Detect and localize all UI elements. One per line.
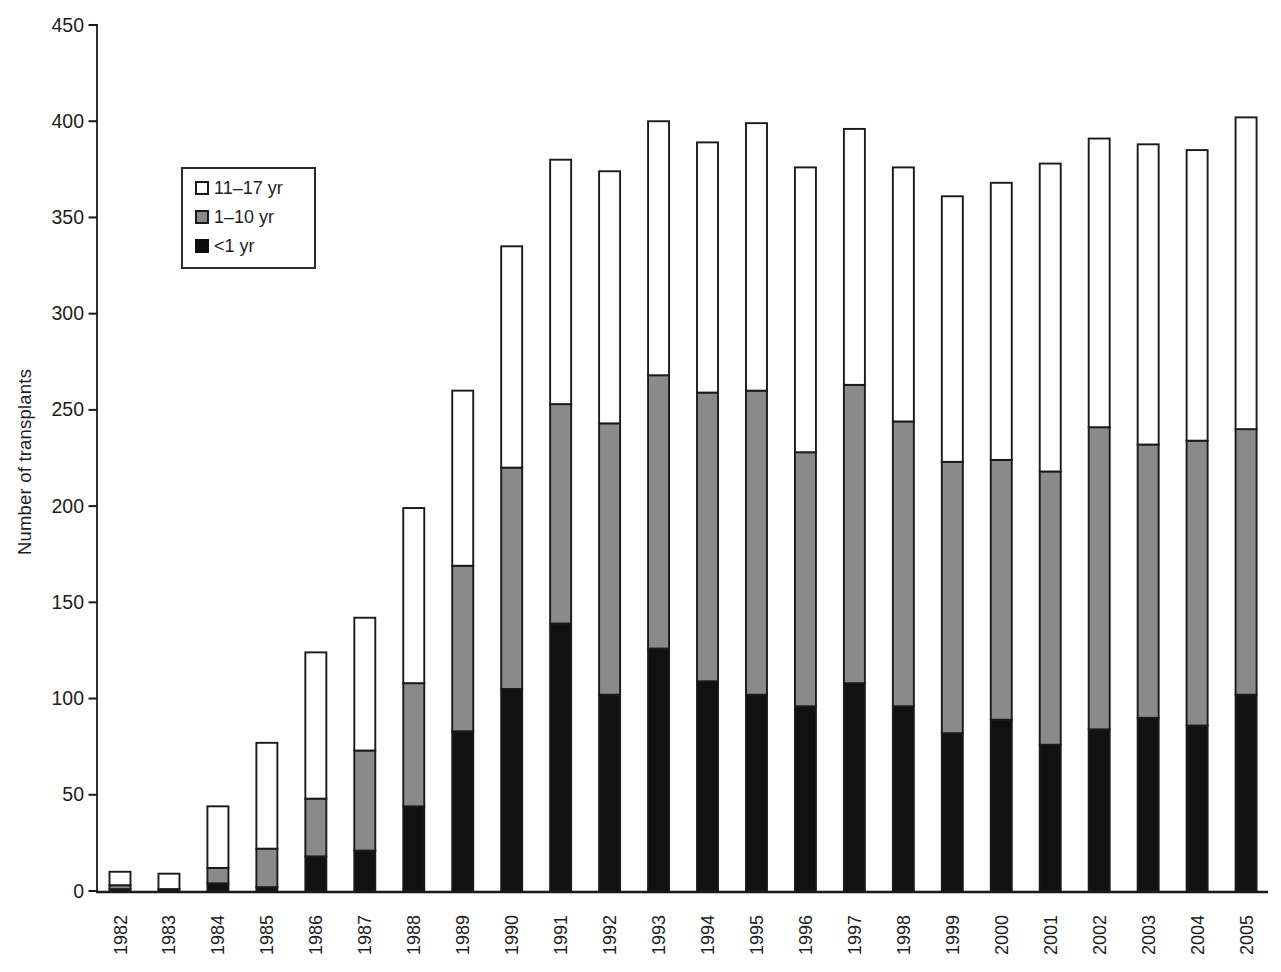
x-tick-label: 1994 xyxy=(698,915,718,955)
x-tick-label: 1990 xyxy=(502,915,522,955)
bar-segment-1991 xyxy=(550,624,571,891)
bar-segment-1992 xyxy=(599,171,620,423)
x-tick-label: 2001 xyxy=(1041,915,1061,955)
bar-segment-1990 xyxy=(501,689,522,891)
legend-item-lt1yr: <1 yr xyxy=(195,237,308,255)
bar-segment-1987 xyxy=(354,751,375,851)
stacked-bar-chart: 0501001502002503003504004501982198319841… xyxy=(0,0,1281,972)
y-tick-label: 100 xyxy=(51,687,84,709)
chart-legend: 11–17 yr 1–10 yr <1 yr xyxy=(181,167,316,269)
gray-square-icon xyxy=(195,210,209,224)
y-tick-label: 150 xyxy=(51,591,84,613)
x-tick-label: 1989 xyxy=(453,915,473,955)
bar-segment-1992 xyxy=(599,423,620,694)
bar-segment-1988 xyxy=(403,683,424,806)
bar-segment-2003 xyxy=(1138,718,1159,891)
bar-segment-1985 xyxy=(256,849,277,887)
x-tick-label: 1983 xyxy=(159,915,179,955)
bar-segment-1993 xyxy=(648,375,669,648)
bar-segment-1996 xyxy=(795,167,816,452)
bar-segment-2003 xyxy=(1138,445,1159,718)
bar-segment-1999 xyxy=(942,196,963,462)
y-tick-label: 200 xyxy=(51,495,84,517)
bar-segment-1984 xyxy=(207,806,228,868)
bar-segment-1993 xyxy=(648,121,669,375)
bar-segment-1996 xyxy=(795,706,816,891)
bar-segment-2002 xyxy=(1089,427,1110,729)
bar-segment-1982 xyxy=(110,872,131,885)
y-axis-title: Number of transplants xyxy=(14,369,35,555)
y-tick-label: 450 xyxy=(51,14,84,36)
x-tick-label: 1988 xyxy=(404,915,424,955)
bar-segment-1994 xyxy=(697,393,718,682)
legend-label: 1–10 yr xyxy=(214,208,274,226)
bar-segment-1986 xyxy=(305,652,326,798)
y-tick-label: 0 xyxy=(73,880,84,902)
bar-segment-2001 xyxy=(1040,471,1061,744)
bar-segment-1988 xyxy=(403,806,424,891)
legend-item-1-10yr: 1–10 yr xyxy=(195,208,308,226)
x-tick-label: 1995 xyxy=(747,915,767,955)
bar-segment-1991 xyxy=(550,160,571,404)
x-tick-label: 1996 xyxy=(796,915,816,955)
bar-segment-2004 xyxy=(1187,441,1208,726)
bar-segment-1993 xyxy=(648,649,669,891)
x-tick-label: 1992 xyxy=(600,915,620,955)
bar-segment-1983 xyxy=(158,874,179,889)
bar-segment-1989 xyxy=(452,566,473,732)
bar-segment-2000 xyxy=(991,460,1012,720)
x-tick-label: 1982 xyxy=(111,915,131,955)
x-tick-label: 1985 xyxy=(257,915,277,955)
bar-segment-1986 xyxy=(305,799,326,857)
x-tick-label: 1987 xyxy=(355,915,375,955)
x-tick-label: 1984 xyxy=(208,915,228,955)
bar-segment-1998 xyxy=(893,706,914,891)
bar-segment-1989 xyxy=(452,391,473,566)
bar-segment-1997 xyxy=(844,683,865,891)
x-tick-label: 2002 xyxy=(1090,915,1110,955)
x-tick-label: 1993 xyxy=(649,915,669,955)
x-tick-label: 1997 xyxy=(845,915,865,955)
bar-segment-1992 xyxy=(599,695,620,891)
x-tick-label: 2000 xyxy=(992,915,1012,955)
bar-segment-2005 xyxy=(1236,429,1257,695)
chart-layer: 0501001502002503003504004501982198319841… xyxy=(51,14,1268,956)
x-tick-label: 1999 xyxy=(943,915,963,955)
bar-segment-1999 xyxy=(942,462,963,733)
bar-segment-1995 xyxy=(746,695,767,891)
legend-label: <1 yr xyxy=(214,237,255,255)
bar-segment-1995 xyxy=(746,123,767,390)
bar-segment-2004 xyxy=(1187,725,1208,891)
bar-segment-1999 xyxy=(942,733,963,891)
bar-segment-1986 xyxy=(305,856,326,891)
bar-segment-2002 xyxy=(1089,729,1110,891)
bar-segment-1987 xyxy=(354,851,375,891)
bar-segment-1984 xyxy=(207,883,228,891)
bar-segment-1987 xyxy=(354,618,375,751)
bar-segment-1991 xyxy=(550,404,571,623)
chart-figure: 0501001502002503003504004501982198319841… xyxy=(0,0,1281,972)
bar-segment-1994 xyxy=(697,142,718,392)
bar-segment-2000 xyxy=(991,183,1012,460)
bar-segment-2001 xyxy=(1040,745,1061,891)
bar-segment-2005 xyxy=(1236,117,1257,429)
bar-segment-1984 xyxy=(207,868,228,883)
bar-segment-2005 xyxy=(1236,695,1257,891)
y-tick-label: 300 xyxy=(51,302,84,324)
bar-segment-1994 xyxy=(697,681,718,891)
bar-segment-1997 xyxy=(844,129,865,385)
white-square-icon xyxy=(195,181,209,195)
bar-segment-2002 xyxy=(1089,139,1110,428)
bar-segment-2004 xyxy=(1187,150,1208,441)
bar-segment-1985 xyxy=(256,743,277,849)
x-tick-label: 1998 xyxy=(894,915,914,955)
bar-segment-2003 xyxy=(1138,144,1159,444)
x-tick-label: 1986 xyxy=(306,915,326,955)
bar-segment-1990 xyxy=(501,246,522,467)
bar-segment-1998 xyxy=(893,421,914,706)
bar-segment-1989 xyxy=(452,731,473,891)
bar-segment-1995 xyxy=(746,391,767,695)
bar-segment-1998 xyxy=(893,167,914,421)
y-tick-label: 250 xyxy=(51,398,84,420)
y-tick-label: 350 xyxy=(51,206,84,228)
